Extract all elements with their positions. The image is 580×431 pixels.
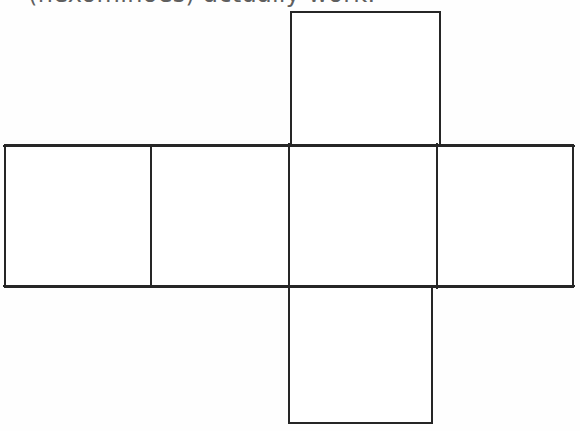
cube-net-svg [0, 0, 580, 431]
square-top [291, 12, 440, 147]
scanned-page: (hexominoes) actually work. [0, 0, 580, 431]
square-row-3-center [289, 145, 437, 287]
square-row-4 [437, 145, 573, 287]
cube-net-figure [0, 0, 580, 431]
square-row-1 [5, 145, 151, 287]
square-row-2 [151, 145, 289, 287]
square-bottom [289, 287, 432, 423]
